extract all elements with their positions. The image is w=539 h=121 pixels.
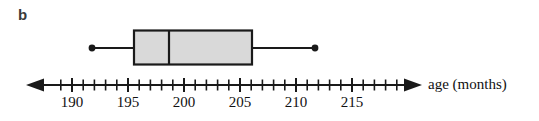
axis-title-age-months: age (months) [428, 76, 507, 93]
box-iqr [134, 31, 252, 65]
axis-tick-label: 215 [341, 94, 364, 111]
axis-tick-label: 200 [173, 94, 196, 111]
axis-tick-label: 195 [117, 94, 140, 111]
axis-tick-label: 210 [285, 94, 308, 111]
axis-tick-label: 190 [61, 94, 84, 111]
axis-tick-label: 205 [229, 94, 252, 111]
whisker-min-marker [89, 45, 96, 52]
boxplot-figure: b 190195200205210215 age (months) [0, 0, 539, 121]
whisker-max-marker [312, 45, 319, 52]
axis-arrow-right [404, 79, 422, 92]
axis-arrow-left [26, 79, 44, 92]
